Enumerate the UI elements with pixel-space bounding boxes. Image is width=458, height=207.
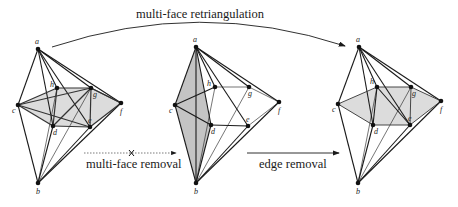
diagram-canvas: ahg cfd eb ahg cfd (0, 0, 458, 207)
svg-text:a: a (35, 37, 39, 46)
svg-text:f: f (120, 107, 124, 116)
svg-text:d: d (211, 127, 216, 136)
svg-text:g: g (93, 90, 97, 99)
svg-text:f: f (278, 106, 282, 115)
svg-text:a: a (356, 35, 360, 44)
svg-text:g: g (248, 89, 252, 98)
svg-text:b: b (36, 187, 40, 196)
svg-text:b: b (194, 187, 198, 196)
svg-text:e: e (246, 115, 250, 124)
svg-text:e: e (88, 116, 92, 125)
svg-text:c: c (169, 106, 173, 115)
svg-text:e: e (408, 114, 412, 123)
svg-text:c: c (12, 106, 16, 115)
svg-text:d: d (374, 127, 379, 136)
svg-text:h: h (370, 77, 374, 86)
svg-text:a: a (193, 35, 197, 44)
svg-text:h: h (50, 80, 54, 89)
svg-text:g: g (412, 89, 416, 98)
graph-after: ahg cfd eb (332, 35, 444, 196)
retriangulation-label: multi-face retriangulation (136, 7, 264, 22)
svg-text:c: c (332, 105, 336, 114)
svg-text:h: h (207, 79, 211, 88)
svg-text:f: f (440, 105, 444, 114)
svg-text:b: b (356, 187, 360, 196)
retriangulation-arrow (52, 22, 345, 47)
svg-text:d: d (53, 128, 58, 137)
multi-face-removal-label: multi-face removal (86, 157, 181, 172)
graph-before: ahg cfd eb (12, 37, 124, 196)
edge-removal-label: edge removal (259, 157, 327, 172)
